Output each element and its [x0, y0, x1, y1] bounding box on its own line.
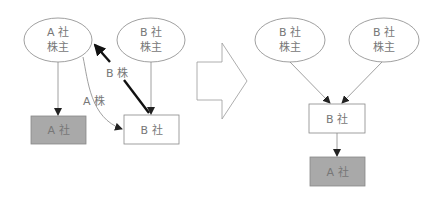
after-shareholders-left-label-1: B 社	[279, 25, 301, 39]
share-exchange-diagram: A 社 株主 B 社 株主 A 社 B 社 A 株 B 株	[0, 0, 441, 199]
b-shareholders-ellipse: B 社 株主	[117, 18, 185, 62]
before-panel: A 社 株主 B 社 株主 A 社 B 社 A 株 B 株	[24, 18, 185, 144]
after-company-a-label: A 社	[326, 165, 348, 179]
after-shareholders-right-label-1: B 社	[373, 25, 395, 39]
arrow-b-shares-lower	[124, 80, 149, 113]
a-shareholders-label-1: A 社	[47, 25, 69, 39]
company-a-box: A 社	[31, 116, 86, 144]
b-shareholders-label-1: B 社	[140, 25, 162, 39]
a-shareholders-ellipse: A 社 株主	[24, 18, 92, 62]
arrow-right-shareholders-to-b	[342, 62, 382, 103]
a-shares-label: A 株	[83, 94, 105, 108]
after-shareholders-right-label-2: 株主	[373, 40, 395, 54]
after-company-a-box: A 社	[310, 157, 365, 186]
after-shareholders-left-label-2: 株主	[279, 40, 301, 54]
a-shareholders-label-2: 株主	[47, 40, 69, 54]
b-shareholders-label-2: 株主	[140, 40, 162, 54]
after-shareholders-right-ellipse: B 社 株主	[349, 18, 419, 62]
after-shareholders-left-ellipse: B 社 株主	[255, 18, 325, 62]
company-a-label: A 社	[47, 123, 69, 137]
arrow-left-shareholders-to-b	[290, 62, 330, 103]
company-b-label: B 社	[140, 123, 162, 137]
after-company-b-box: B 社	[309, 104, 365, 133]
arrow-b-shares-upper	[95, 45, 110, 62]
after-company-b-label: B 社	[326, 112, 348, 126]
b-shares-label: B 株	[106, 66, 128, 80]
transition-arrow-icon	[197, 43, 247, 119]
after-panel: B 社 株主 B 社 株主 B 社 A 社	[255, 18, 419, 186]
company-b-box: B 社	[124, 115, 179, 144]
